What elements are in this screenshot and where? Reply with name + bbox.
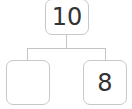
connector-stem [66, 34, 67, 49]
whole-box: 10 [45, 0, 89, 35]
whole-value: 10 [52, 5, 83, 29]
part-right-value: 8 [97, 71, 112, 95]
part-box-left[interactable] [6, 60, 50, 105]
connector-bar [27, 48, 106, 49]
part-box-right: 8 [83, 60, 127, 105]
